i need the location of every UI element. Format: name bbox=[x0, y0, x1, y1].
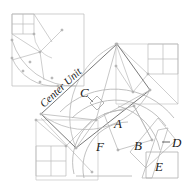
label-a: A bbox=[113, 116, 122, 131]
label-center-unit: Center Unit bbox=[37, 64, 84, 109]
label-e: E bbox=[154, 159, 163, 174]
label-d: D bbox=[171, 135, 182, 150]
quilt-piecing-svg: Center Unit C A B D E F bbox=[0, 0, 188, 184]
diagram-canvas: Center Unit C A B D E F bbox=[0, 0, 188, 184]
label-b: B bbox=[134, 138, 142, 153]
label-c: C bbox=[80, 85, 89, 100]
label-f: F bbox=[95, 139, 105, 154]
block-top-right bbox=[115, 43, 178, 104]
